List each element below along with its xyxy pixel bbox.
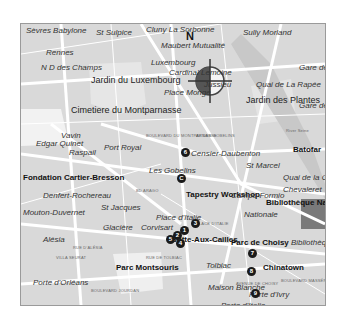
metro-label: Sèvres Babylone	[26, 27, 86, 35]
map-marker[interactable]: 7	[248, 249, 257, 258]
place-parc-choisy: Parc de Choisy	[231, 239, 289, 247]
metro-label: Censier-Daubenton	[191, 150, 260, 158]
place-batofar: Batofar	[293, 146, 321, 154]
street-label: RUE D'ALÉSIA	[73, 246, 103, 250]
metro-label: Quai de la Gare	[283, 174, 326, 182]
map-marker[interactable]: 8	[247, 267, 256, 276]
street-label: BD ARAGO	[136, 189, 159, 193]
place-bnf: Bibliothèque Nationale de France	[266, 199, 326, 207]
park-label-luxembourg: Jardin du Luxembourg	[91, 76, 181, 85]
place-chinatown: Chinatown	[263, 264, 304, 272]
street-label: AV DES GOBELINS	[196, 134, 235, 138]
map-marker[interactable]: C	[177, 174, 186, 183]
metro-label: Campo-Formio	[231, 192, 284, 200]
place-fondation: Fondation Cartier-Bresson	[23, 174, 124, 182]
place-italie-small: PLACE D'ITALIE	[196, 222, 229, 226]
metro-label: Nationale	[244, 211, 278, 219]
metro-label: Porte d'Italie	[221, 302, 265, 306]
street-label: AVENUE DE CHOISY	[236, 282, 278, 286]
metro-label: Mouton-Duvernet	[23, 209, 85, 217]
metro-label: Sully Morland	[243, 29, 291, 37]
metro-label: Tolbiac	[206, 262, 231, 270]
map-marker[interactable]: 9	[251, 289, 260, 298]
metro-label: Edgar Quinet	[36, 140, 83, 148]
map-canvas[interactable]: N Jardin du Luxembourg Jardin des Plante…	[20, 23, 326, 306]
metro-label: St Jacques	[101, 204, 141, 212]
park-label-montparnasse: Cimetiere du Montparnasse	[71, 106, 182, 115]
metro-label: Bibliothèque F Mitterrand	[291, 239, 326, 247]
metro-label: Glacière	[103, 224, 133, 232]
metro-label: Denfert-Rochereau	[43, 192, 111, 200]
metro-label: Cluny La Sorbonne	[146, 26, 215, 34]
metro-label: St Sulpice	[96, 29, 132, 37]
metro-label: Port Royal	[104, 144, 141, 152]
metro-label: Alésia	[43, 236, 65, 244]
river-label: River Seine	[286, 129, 309, 133]
map-marker[interactable]: 4	[176, 239, 185, 248]
street-label: BOULEVARD JOURDAN	[91, 289, 139, 293]
metro-label: Quai de La Rapée	[256, 81, 321, 89]
metro-label: Place Monge	[164, 89, 211, 97]
metro-label: Luxembourg	[151, 59, 195, 67]
metro-label: St Marcel	[246, 162, 280, 170]
map-marker[interactable]: 3	[191, 219, 200, 228]
metro-label: Porte d'Orléans	[33, 279, 88, 287]
metro-label: N D des Champs	[41, 64, 102, 72]
metro-label: Gare de Lyon	[299, 102, 326, 110]
metro-label: Cité Universitaire	[126, 304, 187, 306]
metro-label: Maubert Mutualité	[161, 42, 225, 50]
map-marker[interactable]: 5	[166, 235, 175, 244]
metro-label: Gare de Lyon	[299, 64, 326, 72]
metro-label: Rennes	[46, 49, 74, 57]
street-label: RUE DE TOLBIAC	[146, 256, 182, 260]
metro-label: Cardinal Lemoine	[169, 69, 232, 77]
metro-label: Les Gobelins	[149, 167, 196, 175]
metro-label: Corvisart	[141, 224, 173, 232]
park-label-montsouris: Parc Montsouris	[116, 264, 179, 272]
metro-label: Chevaleret	[283, 186, 322, 194]
metro-label: Raspail	[69, 149, 96, 157]
map-marker[interactable]: 6	[181, 148, 190, 157]
street-label: VILLA SEURAT	[56, 256, 86, 260]
street-label: BOULEVARD MASSÉNA	[281, 279, 326, 283]
